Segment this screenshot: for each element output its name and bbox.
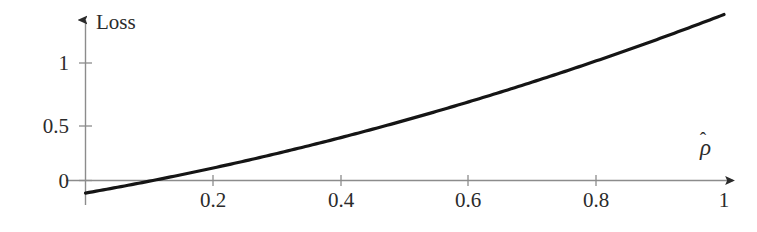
loss-curve-line (86, 15, 725, 194)
x-tick-label-0.6: 0.6 (455, 190, 481, 211)
y-tick-label-0.5: 0.5 (28, 116, 69, 137)
y-axis-title: Loss (96, 12, 136, 33)
x-tick-label-1: 1 (719, 190, 730, 211)
y-tick-label-0: 0 (47, 171, 69, 192)
hat-accent-icon: ̂ (703, 129, 708, 148)
x-tick-label-0.2: 0.2 (200, 190, 226, 211)
y-tick-label-1: 1 (47, 53, 69, 74)
x-axis-title: ̂ ρ (700, 134, 711, 159)
plot-canvas (0, 0, 757, 232)
x-tick-label-0.4: 0.4 (328, 190, 354, 211)
rho-hat-group: ̂ ρ (700, 134, 711, 159)
x-tick-label-0.8: 0.8 (583, 190, 609, 211)
loss-curve-figure: Loss ̂ ρ 0.2 0.4 0.6 0.8 1 0 0.5 1 (0, 0, 757, 232)
